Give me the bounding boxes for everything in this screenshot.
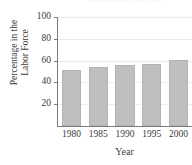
y-tick-label: 60	[42, 56, 52, 66]
x-tick-label: 1995	[138, 129, 165, 140]
bar-series	[58, 17, 192, 126]
plot-area: 20406080100 19801985199019952000	[57, 17, 192, 126]
y-tick-label: 40	[42, 77, 52, 87]
bar-chart-figure: Women in the Labor Force Percentage in t…	[0, 0, 192, 165]
y-tick-label: 80	[42, 34, 52, 44]
y-axis-title-line1: Percentage in the	[9, 0, 20, 113]
bar	[62, 70, 81, 126]
x-tick-label: 2000	[165, 129, 192, 140]
bar	[169, 60, 188, 126]
y-axis-title: Percentage in the Labor Force	[9, 0, 30, 113]
x-tick-label: 1985	[85, 129, 112, 140]
y-tick-label: 100	[37, 12, 51, 22]
y-axis-title-line2: Labor Force	[19, 0, 30, 113]
bar	[142, 64, 161, 126]
y-tick-label: 20	[42, 99, 52, 109]
bar	[115, 65, 134, 126]
x-axis-title: Year	[57, 146, 192, 158]
x-tick-label: 1990	[112, 129, 139, 140]
bar	[89, 67, 108, 126]
x-tick-label: 1980	[58, 129, 85, 140]
chart-title: Women in the Labor Force	[62, 0, 190, 4]
x-axis-line	[57, 126, 192, 127]
